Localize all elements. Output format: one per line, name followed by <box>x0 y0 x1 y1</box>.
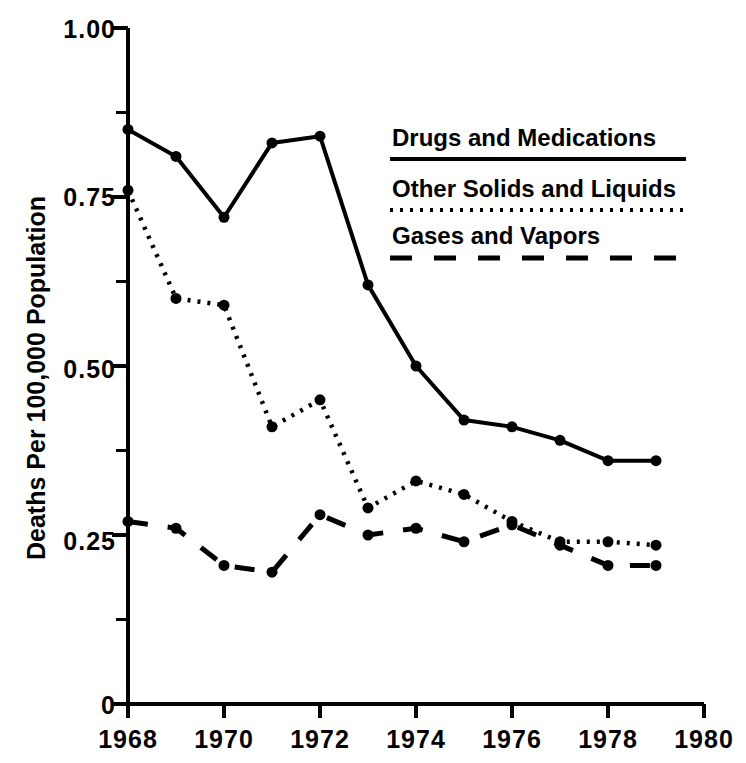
y-tick-label-3: 0.50 <box>63 355 116 383</box>
data-point-1-1970 <box>219 300 230 311</box>
data-point-2-1971 <box>267 567 278 578</box>
data-point-0-1969 <box>171 151 182 162</box>
chart-figure: Deaths Per 100,000 Population 1.00 0.75 … <box>0 0 746 763</box>
x-axis-tick-labels: 1968 1970 1972 1974 1976 1978 1980 <box>98 725 734 753</box>
data-point-1-1978 <box>603 536 614 547</box>
data-point-1-1975 <box>459 489 470 500</box>
data-point-0-1978 <box>603 455 614 466</box>
data-point-2-1978 <box>603 560 614 571</box>
x-tick-label-1980: 1980 <box>674 725 734 753</box>
data-point-0-1972 <box>315 131 326 142</box>
legend: Drugs and Medications Other Solids and L… <box>390 124 690 258</box>
data-point-0-1971 <box>267 137 278 148</box>
data-point-1-1973 <box>363 502 374 513</box>
data-point-2-1975 <box>459 536 470 547</box>
data-point-0-1970 <box>219 212 230 223</box>
data-point-0-1977 <box>555 435 566 446</box>
data-point-0-1979 <box>651 455 662 466</box>
data-point-0-1976 <box>507 421 518 432</box>
data-point-2-1968 <box>123 516 134 527</box>
data-point-0-1973 <box>363 279 374 290</box>
data-point-1-1971 <box>267 421 278 432</box>
series-line-2 <box>128 515 656 572</box>
legend-label-other-solids: Other Solids and Liquids <box>392 175 676 202</box>
legend-label-gases: Gases and Vapors <box>392 222 600 249</box>
data-point-1-1979 <box>651 540 662 551</box>
data-point-1-1968 <box>123 185 134 196</box>
x-tick-label-1974: 1974 <box>386 725 446 753</box>
data-point-2-1976 <box>507 519 518 530</box>
x-tick-label-1972: 1972 <box>290 725 350 753</box>
data-point-1-1972 <box>315 394 326 405</box>
data-point-2-1977 <box>555 540 566 551</box>
data-point-2-1973 <box>363 530 374 541</box>
data-point-2-1969 <box>171 523 182 534</box>
series-gases-and-vapors <box>123 509 662 577</box>
data-point-2-1970 <box>219 560 230 571</box>
y-axis-tick-labels: 1.00 0.75 0.50 0.25 0 <box>63 15 116 719</box>
x-tick-label-1978: 1978 <box>578 725 638 753</box>
data-point-1-1969 <box>171 293 182 304</box>
x-tick-label-1976: 1976 <box>482 725 542 753</box>
data-point-0-1975 <box>459 415 470 426</box>
data-point-0-1968 <box>123 124 134 135</box>
line-chart-svg: Deaths Per 100,000 Population 1.00 0.75 … <box>0 0 746 763</box>
x-tick-label-1970: 1970 <box>194 725 254 753</box>
y-axis-title: Deaths Per 100,000 Population <box>22 196 50 560</box>
data-point-2-1974 <box>411 523 422 534</box>
data-point-0-1974 <box>411 361 422 372</box>
legend-label-drugs: Drugs and Medications <box>392 124 656 151</box>
x-tick-label-1968: 1968 <box>98 725 158 753</box>
data-point-1-1974 <box>411 475 422 486</box>
data-point-2-1972 <box>315 509 326 520</box>
y-tick-label-4: 0.25 <box>63 527 116 555</box>
y-tick-label-1: 1.00 <box>63 15 116 43</box>
data-point-2-1979 <box>651 560 662 571</box>
y-tick-label-2: 0.75 <box>63 183 116 211</box>
